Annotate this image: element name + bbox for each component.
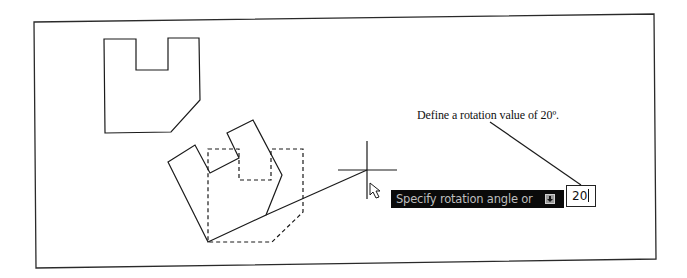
annotation-leader-line (490, 122, 581, 185)
rotated-preview-shape (168, 120, 282, 242)
drawing-canvas[interactable]: Define a rotation value of 20º. Specify … (0, 0, 687, 278)
down-arrow-options-icon[interactable] (545, 194, 555, 204)
rotation-angle-value: 20 (572, 189, 587, 203)
original-shape[interactable] (104, 38, 200, 133)
crosshair-cursor-icon (338, 141, 397, 199)
prompt-text: Specify rotation angle or (396, 192, 545, 206)
cad-drawing (0, 0, 687, 278)
rotation-angle-input[interactable]: 20 (566, 185, 596, 207)
dynamic-input-prompt: Specify rotation angle or (391, 190, 564, 208)
text-caret (588, 189, 589, 202)
pointer-arrow-icon (370, 183, 380, 198)
annotation-text: Define a rotation value of 20º. (417, 108, 559, 123)
drawing-frame (34, 14, 656, 268)
dashed-base-shape (208, 149, 303, 242)
